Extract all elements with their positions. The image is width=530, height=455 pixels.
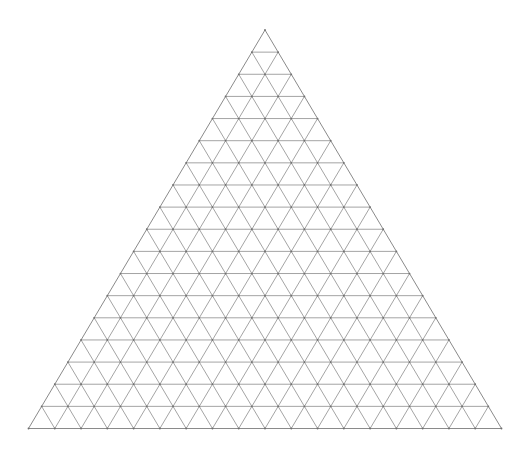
grid-vertex: [212, 118, 214, 120]
grid-vertex: [369, 295, 371, 297]
grid-vertex: [422, 295, 424, 297]
grid-vertex: [409, 317, 411, 319]
grid-vertex: [264, 383, 266, 385]
grid-vertex: [133, 339, 135, 341]
grid-vertex: [212, 206, 214, 208]
grid-vertex: [395, 428, 397, 430]
grid-vertex: [238, 339, 240, 341]
grid-vertex: [317, 162, 319, 164]
grid-vertex: [264, 339, 266, 341]
grid-vertex: [448, 383, 450, 385]
left-parallel-grid-line: [475, 406, 488, 428]
grid-vertex: [290, 383, 292, 385]
grid-vertex: [159, 250, 161, 252]
grid-vertex: [290, 295, 292, 297]
grid-vertex: [304, 405, 306, 407]
grid-vertex: [225, 140, 227, 142]
grid-vertex: [277, 51, 279, 53]
grid-vertex: [238, 295, 240, 297]
grid-vertex: [290, 118, 292, 120]
triangular-grid: [0, 0, 530, 455]
grid-vertex: [198, 361, 200, 363]
grid-vertex: [238, 162, 240, 164]
grid-vertex: [251, 361, 253, 363]
grid-vertex: [330, 140, 332, 142]
grid-vertex: [474, 428, 476, 430]
grid-vertex: [409, 273, 411, 275]
grid-vertex: [356, 405, 358, 407]
grid-vertex: [238, 73, 240, 75]
grid-vertex: [159, 428, 161, 430]
grid-vertex: [172, 405, 174, 407]
grid-vertex: [435, 317, 437, 319]
grid-vertex: [251, 228, 253, 230]
grid-vertex: [317, 428, 319, 430]
grid-vertex: [212, 428, 214, 430]
grid-vertex: [290, 162, 292, 164]
grid-vertex: [395, 383, 397, 385]
grid-vertex: [238, 428, 240, 430]
grid-vertex: [198, 273, 200, 275]
grid-vertex: [251, 184, 253, 186]
grid-vertex: [317, 206, 319, 208]
grid-vertex: [198, 317, 200, 319]
grid-vertex: [317, 339, 319, 341]
grid-vertex: [238, 383, 240, 385]
grid-vertex: [356, 317, 358, 319]
left-parallel-grid-line: [370, 318, 436, 429]
grid-vertex: [67, 361, 69, 363]
grid-vertex: [264, 206, 266, 208]
grid-vertex: [80, 339, 82, 341]
grid-vertex: [238, 206, 240, 208]
grid-vertex: [198, 405, 200, 407]
grid-vertex: [28, 428, 30, 430]
grid-vertex: [185, 162, 187, 164]
grid-vertex: [251, 140, 253, 142]
left-parallel-grid-line: [160, 141, 331, 429]
right-parallel-grid-line: [199, 141, 370, 429]
right-parallel-grid-line: [120, 274, 212, 429]
grid-vertex: [343, 250, 345, 252]
grid-vertex: [501, 428, 503, 430]
grid-vertex: [93, 361, 95, 363]
grid-vertex: [461, 405, 463, 407]
grid-vertex: [80, 383, 82, 385]
grid-vertex: [93, 405, 95, 407]
grid-vertex: [172, 184, 174, 186]
grid-vertex: [277, 140, 279, 142]
grid-vertex: [277, 96, 279, 98]
grid-vertex: [172, 228, 174, 230]
left-parallel-grid-line: [318, 274, 410, 429]
grid-vertex: [133, 295, 135, 297]
grid-vertex: [277, 405, 279, 407]
left-parallel-grid-line: [265, 229, 383, 428]
grid-vertex: [330, 361, 332, 363]
grid-vertex: [330, 317, 332, 319]
grid-vertex: [251, 273, 253, 275]
grid-vertex: [330, 405, 332, 407]
grid-vertex: [369, 250, 371, 252]
grid-vertex: [356, 273, 358, 275]
grid-vertex: [277, 228, 279, 230]
grid-vertex: [225, 273, 227, 275]
grid-vertex: [343, 206, 345, 208]
grid-vertex: [238, 118, 240, 120]
grid-vertex: [304, 273, 306, 275]
grid-vertex: [317, 118, 319, 120]
grid-vertex: [395, 295, 397, 297]
grid-vertex: [277, 361, 279, 363]
grid-vertex: [356, 184, 358, 186]
grid-vertex: [304, 361, 306, 363]
grid-vertex: [304, 140, 306, 142]
grid-vertex: [435, 361, 437, 363]
grid-vertex: [409, 361, 411, 363]
grid-vertex: [185, 206, 187, 208]
grid-vertex: [146, 317, 148, 319]
grid-vertex: [290, 73, 292, 75]
grid-vertex: [159, 206, 161, 208]
grid-vertex: [330, 228, 332, 230]
grid-vertex: [225, 96, 227, 98]
grid-vertex: [264, 162, 266, 164]
grid-vertex: [185, 250, 187, 252]
grid-vertex: [304, 317, 306, 319]
